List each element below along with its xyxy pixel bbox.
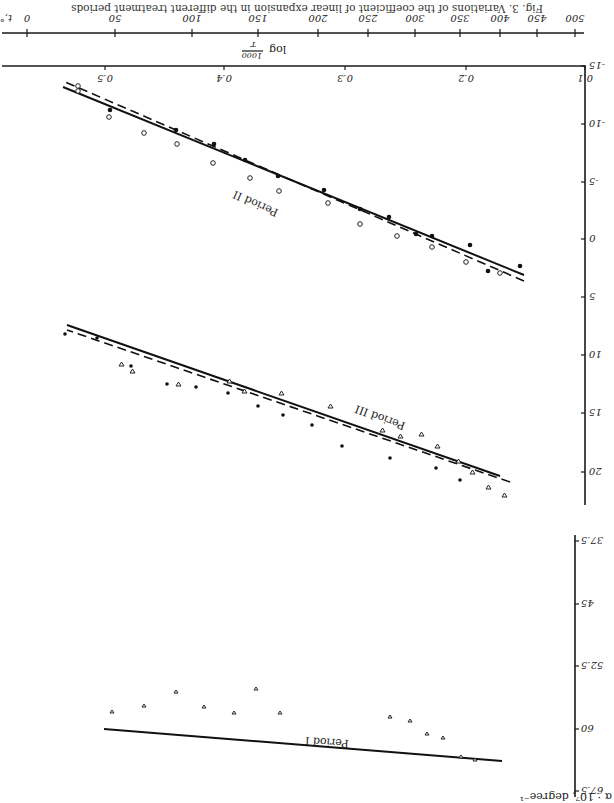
svg-text:0.4: 0.4 — [216, 73, 232, 84]
svg-text:500: 500 — [565, 13, 585, 24]
svg-text:100: 100 — [182, 13, 202, 24]
svg-text:-5: -5 — [589, 176, 599, 187]
svg-text:0: 0 — [23, 13, 30, 24]
svg-text:log: log — [269, 43, 286, 56]
svg-text:45: 45 — [581, 598, 595, 609]
period-1-fit-solid — [104, 729, 502, 761]
svg-text:0.3: 0.3 — [337, 73, 353, 84]
svg-text:400: 400 — [490, 13, 511, 24]
svg-text:-15: -15 — [589, 60, 605, 71]
svg-text:60: 60 — [580, 723, 593, 734]
svg-text:52.5: 52.5 — [581, 660, 603, 671]
svg-text:-10: -10 — [588, 118, 605, 129]
svg-text:250: 250 — [358, 13, 379, 24]
log-axis-label: log 1000 T — [242, 40, 287, 60]
period-2-fit-solid — [63, 87, 524, 275]
period-2-series: Period II — [63, 81, 524, 281]
svg-text:1000: 1000 — [242, 51, 262, 60]
svg-text:200: 200 — [308, 13, 329, 24]
svg-text:5: 5 — [589, 291, 595, 302]
svg-text:T: T — [250, 40, 256, 49]
svg-text:300: 300 — [405, 13, 425, 24]
svg-text:15: 15 — [589, 407, 602, 418]
period-2-label: Period II — [231, 188, 280, 219]
chart-rotated-container: Fig. 3. Variations of the coefficient of… — [0, 0, 614, 803]
period-1-label: Period I — [305, 734, 350, 750]
svg-text:0.5: 0.5 — [97, 73, 113, 84]
figure-caption: Fig. 3. Variations of the coefficient of… — [71, 3, 543, 15]
svg-text:0.2: 0.2 — [458, 73, 474, 84]
y-axis-label: α · 10⁷, degree⁻¹ — [520, 790, 612, 803]
svg-text:50: 50 — [108, 13, 121, 24]
svg-text:150: 150 — [248, 13, 268, 24]
period-3-fit-solid — [67, 325, 500, 476]
period-1-series: Period I — [104, 687, 502, 761]
svg-text:450: 450 — [527, 13, 548, 24]
svg-text:350: 350 — [450, 13, 470, 24]
svg-text:10: 10 — [588, 349, 601, 360]
period-3-series: Period III — [63, 325, 510, 497]
y-tick-labels-lower: 37.5 45 52.5 60 67.5 — [580, 535, 603, 796]
chart-svg: Fig. 3. Variations of the coefficient of… — [0, 0, 614, 803]
period-3-fit-dashed — [67, 330, 510, 482]
y-tick-labels-upper: -15 -10 -5 0 5 10 15 20 — [588, 60, 605, 477]
svg-text:37.5: 37.5 — [581, 535, 603, 546]
svg-text:20: 20 — [588, 466, 602, 477]
svg-text:0: 0 — [588, 233, 595, 244]
log-tick-labels: 0.1 0.2 0.3 0.4 0.5 — [97, 73, 593, 84]
svg-text:t,°C: t,°C — [0, 13, 12, 24]
